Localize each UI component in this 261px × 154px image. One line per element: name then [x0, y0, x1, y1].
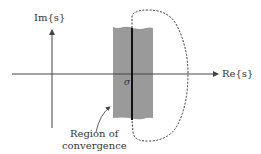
region-label-line1: Region of	[70, 128, 118, 139]
region-label-line2: convergence	[62, 140, 127, 151]
imaginary-axis-label: Im{s}	[34, 12, 65, 23]
sigma-label: σ	[124, 77, 130, 87]
real-axis-label: Re{s}	[222, 68, 253, 79]
